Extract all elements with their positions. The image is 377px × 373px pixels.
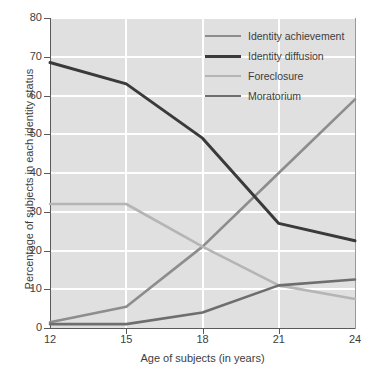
x-tick-label-18: 18	[196, 334, 208, 345]
legend-swatch-icon	[205, 35, 241, 38]
line-chart: 01020304050607080 1215182124 Age of subj…	[0, 0, 377, 373]
legend-label: Identity diffusion	[248, 51, 324, 62]
legend-swatch-icon	[205, 95, 241, 98]
legend-label: Identity achievement	[248, 31, 344, 42]
x-tick-label-12: 12	[44, 334, 56, 345]
y-tick-label-0: 0	[0, 322, 42, 333]
legend-swatch-icon	[205, 75, 241, 78]
x-tick-label-24: 24	[349, 334, 361, 345]
y-axis-title: Percentage of subjects in each identity …	[23, 54, 35, 304]
legend-item-moratorium[interactable]: Moratorium	[205, 86, 373, 106]
y-tick-label-70: 70	[0, 51, 42, 62]
y-tick-label-80: 80	[0, 12, 42, 23]
series-line-foreclosure	[50, 204, 355, 299]
y-tick-label-50: 50	[0, 128, 42, 139]
x-tick-label-21: 21	[273, 334, 285, 345]
legend-label: Moratorium	[248, 91, 301, 102]
y-tick-label-20: 20	[0, 245, 42, 256]
y-tick-0	[44, 328, 50, 329]
y-tick-label-60: 60	[0, 90, 42, 101]
chart-legend: Identity achievementIdentity diffusionFo…	[205, 26, 373, 106]
y-tick-label-30: 30	[0, 206, 42, 217]
y-tick-label-10: 10	[0, 283, 42, 294]
x-tick-label-15: 15	[120, 334, 132, 345]
series-line-moratorium	[50, 280, 355, 325]
legend-item-identity-achievement[interactable]: Identity achievement	[205, 26, 373, 46]
legend-item-foreclosure[interactable]: Foreclosure	[205, 66, 373, 86]
legend-item-identity-diffusion[interactable]: Identity diffusion	[205, 46, 373, 66]
x-axis-title: Age of subjects (in years)	[50, 352, 355, 364]
legend-swatch-icon	[205, 55, 241, 58]
legend-label: Foreclosure	[248, 71, 303, 82]
series-line-identity-achievement	[50, 99, 355, 322]
y-tick-label-40: 40	[0, 167, 42, 178]
